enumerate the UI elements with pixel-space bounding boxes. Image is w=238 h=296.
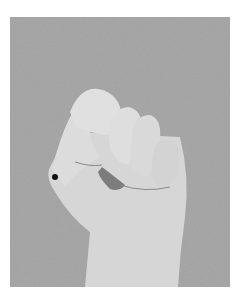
marker-dot [52,174,58,180]
hand-photo [10,17,230,287]
fist-illustration [10,17,230,287]
